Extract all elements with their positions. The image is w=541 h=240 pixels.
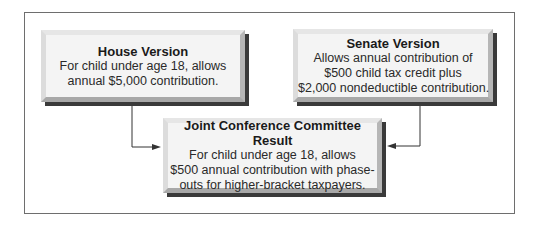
senate-version-line: $2,000 nondeductible contribution. [298, 81, 488, 96]
arrowhead-left-icon [152, 144, 161, 150]
connector-senate-to-result [394, 106, 420, 146]
senate-version-line: Allows annual contribution of [298, 51, 488, 66]
conference-result-line: outs for higher-bracket taxpayers. [168, 178, 377, 193]
senate-version-box: Senate Version Allows annual contributio… [293, 29, 493, 102]
house-version-line: annual $5,000 contribution. [46, 74, 240, 89]
connector-house-to-result [132, 106, 154, 147]
conference-result-line: For child under age 18, allows [168, 148, 377, 163]
house-version-line: For child under age 18, allows [46, 59, 240, 74]
house-version-title: House Version [46, 44, 240, 59]
conference-result-box: Joint Conference Committee Result For ch… [163, 118, 382, 193]
arrowhead-right-icon [387, 143, 396, 149]
house-version-box: House Version For child under age 18, al… [41, 30, 245, 102]
conference-result-title: Joint Conference Committee Result [168, 118, 377, 148]
conference-result-line: $500 annual contribution with phase- [168, 163, 377, 178]
senate-version-title: Senate Version [298, 36, 488, 51]
senate-version-line: $500 child tax credit plus [298, 66, 488, 81]
